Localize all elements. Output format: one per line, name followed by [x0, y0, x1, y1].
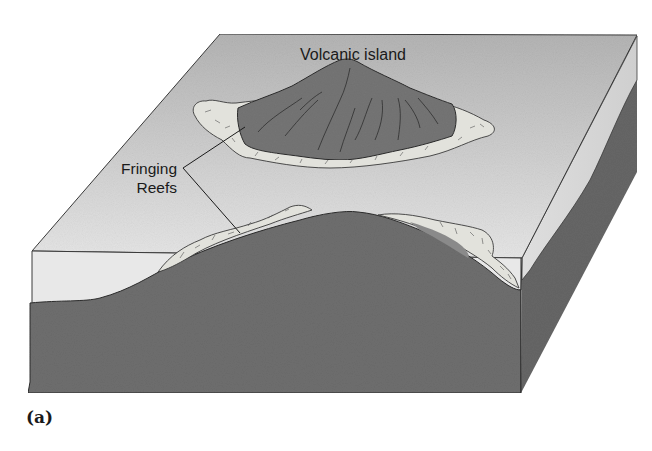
fringing-reefs-label-line2: Reefs	[137, 179, 178, 196]
panel-label: (a)	[26, 407, 53, 427]
volcanic-island-label: Volcanic island	[300, 46, 406, 63]
fringing-reef-block-diagram: Volcanic island Fringing Reefs (a)	[0, 0, 652, 451]
fringing-reefs-label-line1: Fringing	[121, 160, 177, 177]
